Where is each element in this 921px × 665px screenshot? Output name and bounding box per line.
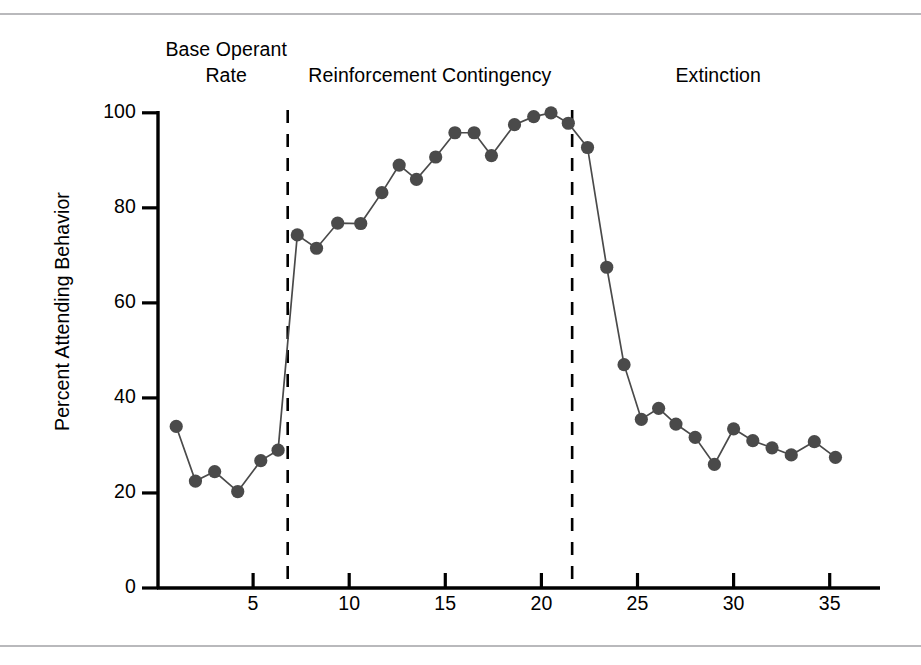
data-point	[829, 451, 842, 464]
data-point	[410, 173, 423, 186]
data-point	[669, 417, 682, 430]
data-point	[785, 448, 798, 461]
plot-area	[0, 0, 921, 665]
data-point	[562, 117, 575, 130]
series-polyline	[176, 113, 835, 492]
y-tick-label: 80	[76, 195, 136, 218]
y-tick-label: 60	[76, 290, 136, 313]
data-point	[689, 431, 702, 444]
data-point	[527, 110, 540, 123]
y-axis-ticks	[142, 113, 158, 588]
x-tick-label: 15	[422, 592, 468, 615]
data-point	[375, 186, 388, 199]
x-tick-label: 10	[326, 592, 372, 615]
data-point	[808, 435, 821, 448]
x-tick-label: 20	[518, 592, 564, 615]
data-point	[727, 422, 740, 435]
data-point	[429, 150, 442, 163]
figure-container: Base Operant Rate Reinforcement Continge…	[0, 0, 921, 665]
data-point	[448, 126, 461, 139]
data-point	[310, 242, 323, 255]
data-point	[652, 402, 665, 415]
data-point	[468, 126, 481, 139]
y-tick-label: 0	[76, 575, 136, 598]
data-point	[765, 441, 778, 454]
x-tick-label: 25	[615, 592, 661, 615]
y-tick-label: 20	[76, 480, 136, 503]
data-point	[708, 458, 721, 471]
series-line-path	[176, 113, 835, 492]
x-tick-label: 5	[230, 592, 276, 615]
data-point	[271, 444, 284, 457]
data-point	[581, 141, 594, 154]
data-point	[746, 434, 759, 447]
data-point	[291, 228, 304, 241]
data-point	[189, 474, 202, 487]
data-point	[254, 454, 267, 467]
data-point	[544, 106, 557, 119]
y-tick-label: 100	[76, 100, 136, 123]
phase-divider-lines	[288, 110, 572, 586]
data-point	[508, 118, 521, 131]
data-point	[485, 149, 498, 162]
x-axis-ticks	[253, 573, 830, 588]
data-point	[617, 358, 630, 371]
data-point	[170, 420, 183, 433]
data-point	[208, 465, 221, 478]
x-tick-label: 35	[807, 592, 853, 615]
y-tick-label: 40	[76, 385, 136, 408]
series-data-points	[170, 106, 842, 498]
x-tick-label: 30	[711, 592, 757, 615]
data-point	[393, 158, 406, 171]
axes	[157, 111, 880, 589]
data-point	[231, 485, 244, 498]
data-point	[600, 261, 613, 274]
data-point	[354, 217, 367, 230]
data-point	[331, 216, 344, 229]
data-point	[635, 413, 648, 426]
